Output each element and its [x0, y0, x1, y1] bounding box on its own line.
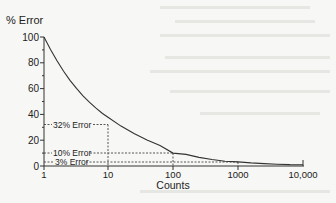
- x-axis-label: Counts: [156, 179, 189, 191]
- svg-text:60: 60: [28, 83, 40, 94]
- svg-text:40: 40: [28, 109, 40, 120]
- svg-text:10: 10: [103, 169, 114, 180]
- y-ticks: [40, 37, 44, 166]
- annotation-32: 32% Error: [53, 120, 91, 130]
- svg-text:10,000: 10,000: [288, 169, 317, 180]
- annotation-3: 3% Error: [55, 157, 89, 167]
- svg-text:80: 80: [28, 57, 40, 68]
- svg-text:20: 20: [28, 135, 40, 146]
- error-curve: [44, 37, 303, 165]
- svg-text:1: 1: [41, 169, 46, 180]
- annotation-labels: 32% Error 10% Error 3% Error: [53, 120, 91, 168]
- error-vs-counts-chart: % Error 100 80 60 40 20 0 1 10 100 1: [0, 0, 336, 203]
- y-axis-label: % Error: [6, 14, 44, 26]
- svg-text:0: 0: [33, 161, 39, 172]
- svg-text:100: 100: [22, 32, 39, 43]
- y-tick-labels: 100 80 60 40 20 0: [22, 32, 39, 172]
- svg-text:1000: 1000: [227, 169, 248, 180]
